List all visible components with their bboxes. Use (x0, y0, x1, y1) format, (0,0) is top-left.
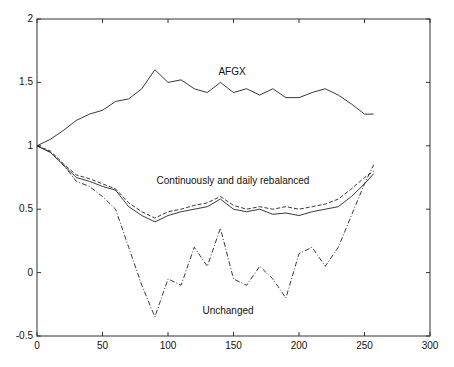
y-tick-label: 2 (27, 13, 33, 24)
unchanged-label: Unchanged (202, 305, 253, 316)
y-tick-label: 0 (27, 267, 33, 278)
afgx-label: AFGX (218, 66, 246, 77)
x-tick-label: 200 (291, 340, 308, 351)
series-afgx (37, 70, 374, 146)
x-tick-label: 100 (160, 340, 177, 351)
y-tick-label: 0.5 (19, 203, 33, 214)
series-lines (37, 70, 374, 317)
y-tick-label: 1 (27, 140, 33, 151)
series-unchanged (37, 146, 374, 317)
rebalanced-label: Continuously and daily rebalanced (157, 175, 310, 186)
x-tick-label: 250 (356, 340, 373, 351)
y-tick-label: 1.5 (19, 76, 33, 87)
x-tick-label: 50 (97, 340, 109, 351)
x-tick-label: 150 (225, 340, 242, 351)
y-tick-label: -0.5 (16, 330, 34, 341)
x-tick-label: 300 (422, 340, 439, 351)
line-chart: 050100150200250300-0.500.511.52 AFGX Con… (0, 0, 454, 367)
x-tick-label: 0 (34, 340, 40, 351)
